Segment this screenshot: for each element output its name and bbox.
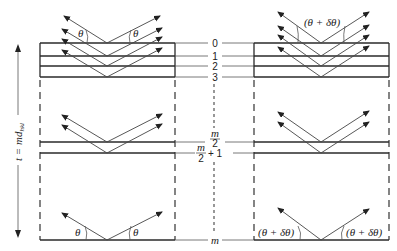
theta-label-bottom-left-in: θ	[75, 226, 81, 238]
arrow-up-icon	[15, 44, 21, 52]
right-panel: (θ + δθ) (θ + δθ) (θ + δθ)	[254, 12, 389, 240]
bottom-rays-right: (θ + δθ) (θ + δθ)	[258, 208, 383, 240]
thickness-arrow: t = mdhkl	[12, 44, 26, 238]
plane-label-0: 0	[212, 38, 218, 49]
bragg-diagram: t = mdhkl θ θ	[0, 0, 397, 251]
theta-label-bottom-left-out: θ	[133, 226, 139, 238]
angle-label-bottom-right-out: (θ + δθ)	[346, 226, 383, 239]
left-panel: θ θ θ θ	[40, 16, 175, 240]
theta-label-top-left-in: θ	[78, 27, 84, 39]
bottom-rays-left: θ θ	[62, 212, 162, 240]
plane-index-labels: 0 1 2 3 m 2 m 2 + 1 m	[175, 38, 254, 246]
angle-label-bottom-right-in: (θ + δθ)	[258, 226, 295, 239]
thickness-label: t = mdhkl	[12, 123, 26, 161]
plane-label-2: 2	[212, 61, 218, 72]
mid-rays-right	[278, 111, 369, 153]
plane-label-m-half-plus-num: m	[197, 141, 205, 153]
plane-label-m: m	[211, 234, 219, 246]
top-rays-left: θ θ	[62, 16, 162, 77]
mid-rays-left	[62, 114, 162, 153]
angle-label-top-right: (θ + δθ)	[304, 16, 341, 29]
plane-label-m-half-plus-den: 2	[198, 153, 204, 164]
theta-label-top-left-out: θ	[133, 27, 139, 39]
plane-label-plus-one: + 1	[208, 148, 223, 159]
top-rays-right: (θ + δθ)	[278, 12, 369, 77]
arrow-down-icon	[15, 230, 21, 238]
plane-label-3: 3	[212, 72, 218, 83]
